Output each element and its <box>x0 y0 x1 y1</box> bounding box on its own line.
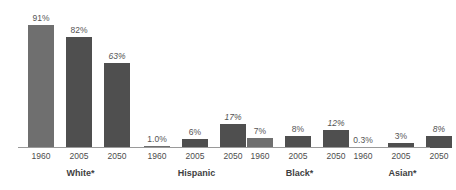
bar-slot-3-2: 8% <box>422 0 456 148</box>
bar-slot-2-0: 7% <box>243 0 277 148</box>
bar-slot-3-1: 3% <box>384 0 418 148</box>
tick-label-1-0: 1960 <box>140 151 174 161</box>
bar-slot-1-0: 1.0% <box>140 0 174 148</box>
bar-value-2-1: 8% <box>281 124 315 134</box>
bar-value-0-0: 91% <box>24 13 58 23</box>
bar-value-0-2: 63% <box>100 51 134 61</box>
bar-0-1[interactable] <box>66 37 92 148</box>
tick-label-0-1: 2005 <box>62 151 96 161</box>
tick-label-1-1: 2005 <box>178 151 212 161</box>
group-label-asian: Asian* <box>340 168 456 179</box>
bar-group-3-bars: 0.3% 3% 8% <box>340 0 456 148</box>
bar-slot-0-0: 91% <box>24 0 58 148</box>
bar-value-1-0: 1.0% <box>140 134 174 144</box>
bar-value-1-1: 6% <box>178 127 212 137</box>
bar-value-0-1: 82% <box>62 25 96 35</box>
bar-slot-0-2: 63% <box>100 0 134 148</box>
tick-label-2-1: 2005 <box>281 151 315 161</box>
bar-value-3-2: 8% <box>422 124 456 134</box>
tick-label-3-2: 2050 <box>422 151 456 161</box>
bar-group-3: 0.3% 3% 8% 1960 2005 2050 Asian* <box>340 0 456 190</box>
bar-0-0[interactable] <box>28 25 54 148</box>
group-label-white: White* <box>18 168 143 179</box>
bar-value-3-1: 3% <box>384 131 418 141</box>
bar-group-0: 91% 82% 63% 1960 2005 2050 White* <box>18 0 143 190</box>
tick-label-2-0: 1960 <box>243 151 277 161</box>
tick-label-0-2: 2050 <box>100 151 134 161</box>
bar-value-2-0: 7% <box>243 126 277 136</box>
bar-group-0-bars: 91% 82% 63% <box>18 0 143 148</box>
bar-0-2[interactable] <box>104 63 130 148</box>
bar-slot-1-1: 6% <box>178 0 212 148</box>
tick-label-0-0: 1960 <box>24 151 58 161</box>
bar-slot-0-1: 82% <box>62 0 96 148</box>
bar-value-3-0: 0.3% <box>346 135 380 145</box>
axis-baseline <box>18 147 430 148</box>
bar-slot-2-1: 8% <box>281 0 315 148</box>
tick-label-3-0: 1960 <box>346 151 380 161</box>
bar-slot-3-0: 0.3% <box>346 0 380 148</box>
tick-label-3-1: 2005 <box>384 151 418 161</box>
